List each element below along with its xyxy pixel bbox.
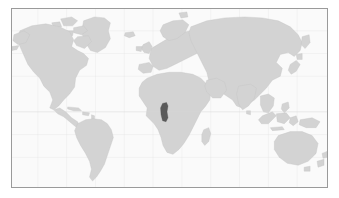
- world-locator-map-figure: [0, 0, 339, 198]
- map-frame: [11, 8, 328, 188]
- map-canvas: [12, 9, 327, 187]
- landmass-hokkaido: [296, 54, 302, 60]
- landmass-tasmania: [304, 166, 310, 171]
- landmass-ireland: [136, 47, 142, 52]
